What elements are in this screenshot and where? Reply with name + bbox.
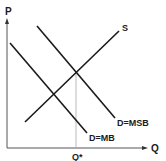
- marginal-social-benefit-label: D=MSB: [117, 118, 149, 128]
- y-axis-label: P: [5, 6, 12, 17]
- supply-demand-diagram: P Q Q* D=MB D=MSB S: [0, 0, 166, 161]
- marginal-benefit-curve: [10, 43, 87, 133]
- x-axis-arrow-icon: [142, 146, 148, 150]
- y-axis: [5, 18, 9, 148]
- x-axis-label: Q: [151, 143, 159, 154]
- marginal-benefit-label: D=MB: [89, 133, 115, 143]
- x-axis: [7, 146, 148, 150]
- y-axis-arrow-icon: [5, 18, 9, 24]
- equilibrium-quantity-label: Q*: [72, 152, 83, 161]
- supply-label: S: [122, 23, 128, 33]
